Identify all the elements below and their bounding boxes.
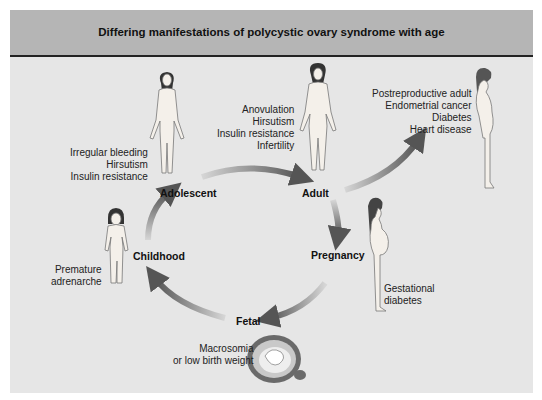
arrow-adult-to-pregnancy: [333, 200, 338, 236]
stage-pregnancy: Pregnancy: [311, 249, 365, 261]
stage-adolescent: Adolescent: [160, 187, 217, 199]
manifestations-postreproductive: Postreproductive adult Endometrial cance…: [372, 88, 472, 136]
arrow-adult-to-postreproductive: [345, 140, 418, 190]
adolescent-figure-icon: [150, 72, 184, 173]
manifestations-childhood: Premature adrenarche: [51, 264, 102, 288]
stage-adult: Adult: [302, 187, 329, 199]
manifestations-fetal: Macrosomia or low birth weight: [173, 343, 254, 367]
fetus-figure-icon: [247, 335, 306, 383]
manifestations-adult: Anovulation Hirsutism Insulin resistance…: [217, 104, 294, 152]
stage-fetal: Fetal: [236, 315, 261, 327]
arrow-childhood-to-adolescent: [148, 192, 170, 240]
manifestations-adolescent: Irregular bleeding Hirsutism Insulin res…: [70, 147, 148, 183]
stage-childhood: Childhood: [133, 250, 185, 262]
arrow-pregnancy-to-fetal: [270, 283, 325, 318]
child-figure-icon: [105, 208, 128, 283]
arrow-adolescent-to-adult: [202, 169, 300, 178]
arrow-fetal-to-childhood: [155, 278, 225, 318]
cycle-diagram: [0, 0, 542, 400]
postreproductive-figure-icon: [476, 68, 494, 188]
manifestations-pregnancy: Gestational diabetes: [384, 283, 435, 307]
adult-figure-icon: [300, 63, 336, 170]
